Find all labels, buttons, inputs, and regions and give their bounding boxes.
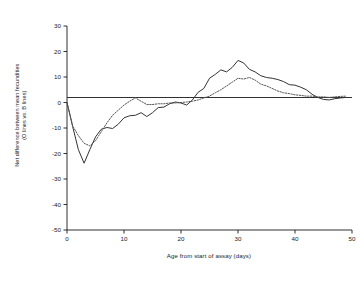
chart-figure: Net difference between mean fecundities … — [0, 0, 358, 281]
x-axis-label: Age from start of assay (days) — [66, 252, 352, 259]
x-tick-label: 10 — [121, 235, 128, 242]
series-solid-line — [67, 60, 346, 163]
y-tick-group: 3020100-10-20-30-40-50 — [52, 22, 67, 233]
y-tick-label: 30 — [54, 22, 61, 29]
x-tick-label: 50 — [349, 235, 356, 242]
plot-area: 3020100-10-20-30-40-50 01020304050 — [0, 0, 358, 281]
y-tick-label: 10 — [54, 73, 61, 80]
y-tick-label: 20 — [54, 48, 61, 55]
x-tick-label: 20 — [178, 235, 185, 242]
y-tick-label: -10 — [52, 124, 62, 131]
x-tick-label: 30 — [235, 235, 242, 242]
y-tick-label: -40 — [52, 201, 62, 208]
x-tick-label: 40 — [292, 235, 299, 242]
y-tick-label: -20 — [52, 150, 62, 157]
x-tick-group: 01020304050 — [65, 230, 356, 242]
x-tick-label: 0 — [65, 235, 69, 242]
y-tick-label: 0 — [58, 99, 62, 106]
series-dotted-line — [67, 78, 346, 146]
y-tick-label: -50 — [52, 226, 62, 233]
y-tick-label: -30 — [52, 175, 62, 182]
